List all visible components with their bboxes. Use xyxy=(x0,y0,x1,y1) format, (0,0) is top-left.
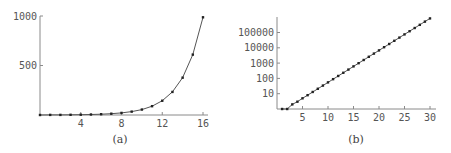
y-tick-label: 1000 xyxy=(13,11,37,22)
data-point xyxy=(312,91,314,93)
data-point xyxy=(181,76,183,78)
x-tick-label: 30 xyxy=(424,112,436,123)
y-tick-label: 100 xyxy=(256,73,274,84)
data-point xyxy=(419,24,421,26)
data-point xyxy=(352,65,354,67)
data-point xyxy=(151,105,153,107)
data-point xyxy=(141,108,143,110)
data-point xyxy=(281,108,283,110)
x-tick-label: 10 xyxy=(322,112,334,123)
data-point xyxy=(202,16,204,18)
data-point xyxy=(368,56,370,58)
x-tick-label: 4 xyxy=(78,118,84,129)
data-point xyxy=(120,112,122,114)
data-point xyxy=(286,108,288,110)
y-ticks: 10100100010000100000 xyxy=(238,27,280,99)
caption-b: (b) xyxy=(348,133,364,146)
data-point xyxy=(59,114,61,116)
data-point xyxy=(424,20,426,22)
x-tick-label: 16 xyxy=(197,118,209,129)
data-point xyxy=(414,27,416,29)
x-tick-label: 8 xyxy=(118,118,124,129)
data-line xyxy=(40,17,203,115)
data-point xyxy=(90,113,92,115)
data-point xyxy=(378,49,380,51)
data-point xyxy=(398,36,400,38)
data-point xyxy=(388,43,390,45)
data-point xyxy=(327,81,329,83)
y-tick-label: 100000 xyxy=(238,27,274,38)
data-point xyxy=(363,59,365,61)
data-point xyxy=(49,114,51,116)
y-ticks: 5001000 xyxy=(13,11,43,72)
data-point xyxy=(403,33,405,35)
data-point xyxy=(373,52,375,54)
data-point xyxy=(192,53,194,55)
data-point xyxy=(69,114,71,116)
data-point xyxy=(342,72,344,74)
y-tick-label: 10000 xyxy=(244,42,274,53)
data-point xyxy=(39,114,41,116)
data-point xyxy=(332,78,334,80)
data-point xyxy=(393,40,395,42)
x-tick-label: 15 xyxy=(347,112,359,123)
x-tick-label: 20 xyxy=(373,112,385,123)
data-point xyxy=(337,75,339,77)
caption-a: (a) xyxy=(112,133,127,146)
data-point xyxy=(130,110,132,112)
data-point xyxy=(317,88,319,90)
data-point xyxy=(291,103,293,105)
data-point xyxy=(100,113,102,115)
data-point xyxy=(383,46,385,48)
data-points xyxy=(281,17,431,110)
data-point xyxy=(301,97,303,99)
y-tick-label: 500 xyxy=(19,60,37,71)
data-point xyxy=(347,68,349,70)
data-point xyxy=(306,94,308,96)
data-point xyxy=(110,113,112,115)
x-tick-label: 12 xyxy=(156,118,168,129)
data-point xyxy=(80,114,82,116)
data-point xyxy=(357,62,359,64)
data-point xyxy=(296,101,298,103)
y-tick-label: 10 xyxy=(262,88,274,99)
data-point xyxy=(322,84,324,86)
data-line xyxy=(282,18,430,109)
data-point xyxy=(408,30,410,32)
x-tick-label: 5 xyxy=(299,112,305,123)
x-tick-label: 25 xyxy=(398,112,410,123)
data-point xyxy=(171,91,173,93)
figure: 481216 5001000 (a) 51015202530 101001000… xyxy=(0,0,451,153)
data-point xyxy=(161,100,163,102)
chart-b-log: 51015202530 10100100010000100000 (b) xyxy=(238,17,436,146)
y-tick-label: 1000 xyxy=(250,58,274,69)
data-point xyxy=(429,17,431,19)
chart-a-linear: 481216 5001000 (a) xyxy=(13,11,209,147)
data-points xyxy=(39,16,204,116)
